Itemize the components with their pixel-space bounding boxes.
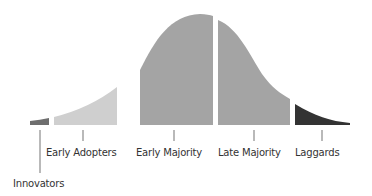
label-early-majority: Early Majority: [136, 147, 202, 158]
diffusion-curve-diagram: Early Adopters Early Majority Late Major…: [0, 0, 372, 196]
label-late-majority: Late Majority: [218, 147, 281, 158]
segment-laggards: [295, 104, 350, 125]
segment-innovators: [30, 118, 49, 125]
label-innovators: Innovators: [13, 178, 64, 189]
segment-late-majority: [218, 20, 290, 125]
segment-early-majority: [140, 14, 213, 125]
label-laggards: Laggards: [295, 147, 339, 158]
segment-early-adopters: [54, 87, 117, 125]
label-early-adopters: Early Adopters: [46, 147, 117, 158]
